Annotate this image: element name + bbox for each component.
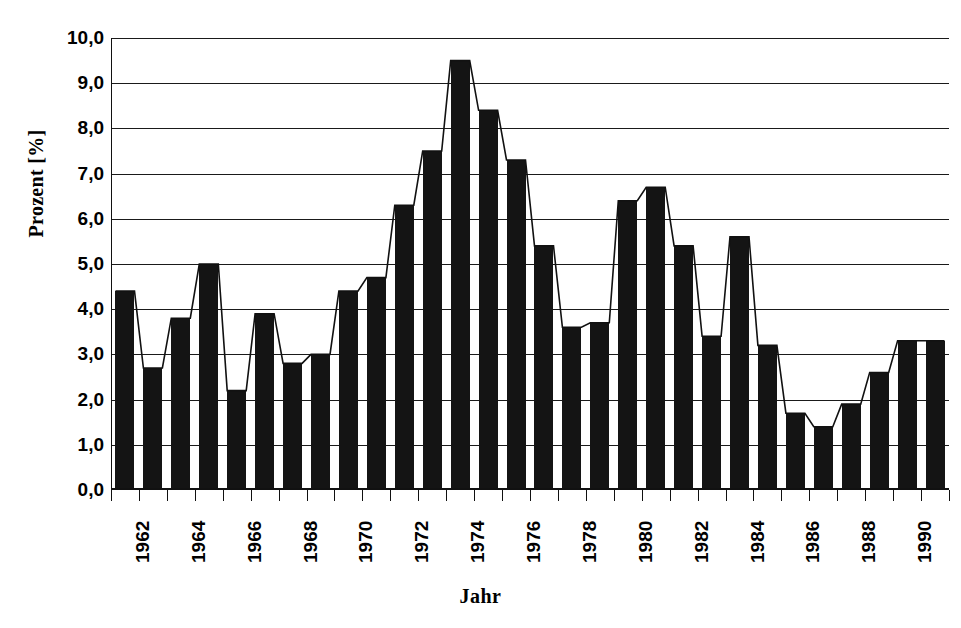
plot-area (111, 38, 949, 490)
x-tick (670, 490, 671, 501)
bar (451, 61, 470, 490)
bar (730, 237, 749, 490)
y-tick-label: 0,0 (26, 480, 104, 499)
x-tick (251, 490, 252, 501)
bar (898, 341, 917, 490)
x-tick-label: 1970 (355, 521, 377, 563)
bar (618, 201, 637, 490)
y-tick-label: 4,0 (26, 299, 104, 318)
x-tick (837, 490, 838, 501)
bar (115, 291, 134, 490)
x-tick (781, 490, 782, 501)
x-tick (865, 490, 866, 501)
bar (870, 372, 889, 490)
bar (255, 314, 274, 490)
x-tick (530, 490, 531, 501)
bar (758, 345, 777, 490)
y-tick-label: 6,0 (26, 209, 104, 228)
bar (786, 413, 805, 490)
chart-title-cropped (0, 0, 961, 8)
y-tick-label: 8,0 (26, 118, 104, 137)
x-tick (949, 490, 950, 501)
bar (646, 187, 665, 490)
bar (842, 404, 861, 490)
x-tick (223, 490, 224, 501)
x-tick-label: 1984 (747, 521, 769, 563)
bar (562, 327, 581, 490)
x-tick (753, 490, 754, 501)
bar (143, 368, 162, 490)
bar (479, 110, 498, 490)
y-tick-label: 5,0 (26, 254, 104, 273)
x-axis-ticks (111, 490, 949, 502)
x-tick (698, 490, 699, 501)
x-tick (921, 490, 922, 501)
y-tick-label: 9,0 (26, 73, 104, 92)
x-tick-label: 1964 (188, 521, 210, 563)
y-axis-tick-labels: 10,09,08,07,06,05,04,03,02,01,00,0 (26, 0, 104, 628)
chart-figure: Prozent [%] 10,09,08,07,06,05,04,03,02,0… (0, 0, 961, 628)
x-tick (446, 490, 447, 501)
x-tick (307, 490, 308, 501)
x-tick (558, 490, 559, 501)
y-tick-label: 10,0 (26, 28, 104, 47)
y-tick-label: 1,0 (26, 435, 104, 454)
x-tick-label: 1978 (579, 521, 601, 563)
x-tick (614, 490, 615, 501)
bar (507, 160, 526, 490)
x-tick (334, 490, 335, 501)
bar (339, 291, 358, 490)
bar (534, 246, 553, 490)
x-tick (474, 490, 475, 501)
x-tick (167, 490, 168, 501)
x-tick (502, 490, 503, 501)
x-tick (642, 490, 643, 501)
x-tick-label: 1974 (467, 521, 489, 563)
x-tick (418, 490, 419, 501)
y-tick-label: 3,0 (26, 344, 104, 363)
x-tick-label: 1986 (802, 521, 824, 563)
bar (814, 427, 833, 490)
x-tick-label: 1966 (244, 521, 266, 563)
bar (395, 205, 414, 490)
x-tick-label: 1980 (635, 521, 657, 563)
bar (283, 363, 302, 490)
x-tick-label: 1968 (300, 521, 322, 563)
bar-series (111, 38, 949, 490)
x-tick-label: 1972 (411, 521, 433, 563)
x-tick-label: 1988 (858, 521, 880, 563)
x-tick-label: 1990 (914, 521, 936, 563)
bar (227, 391, 246, 490)
bar (367, 278, 386, 490)
bar (199, 264, 218, 490)
bar (171, 318, 190, 490)
y-tick-label: 7,0 (26, 164, 104, 183)
x-tick (279, 490, 280, 501)
x-tick-label: 1982 (691, 521, 713, 563)
x-tick (893, 490, 894, 501)
x-axis-tick-labels: 1962196419661968197019721974197619781980… (111, 503, 949, 573)
x-tick (362, 490, 363, 501)
x-tick (139, 490, 140, 501)
x-tick-label: 1976 (523, 521, 545, 563)
bar (590, 323, 609, 490)
x-tick (586, 490, 587, 501)
bar (702, 336, 721, 490)
x-tick (390, 490, 391, 501)
x-tick (195, 490, 196, 501)
bar (674, 246, 693, 490)
bar (311, 354, 330, 490)
y-tick-label: 2,0 (26, 390, 104, 409)
x-tick-label: 1962 (132, 521, 154, 563)
bar (926, 341, 945, 490)
x-axis-title: Jahr (0, 585, 961, 608)
x-tick (726, 490, 727, 501)
bar (423, 151, 442, 490)
x-tick (111, 490, 112, 501)
x-tick (809, 490, 810, 501)
